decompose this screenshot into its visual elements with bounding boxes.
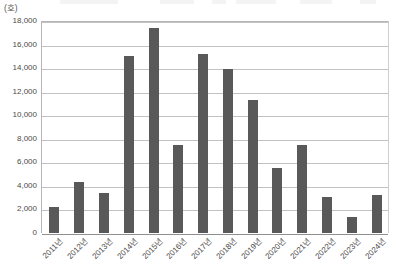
bar <box>272 168 282 233</box>
bar <box>297 145 307 233</box>
bar-slot <box>315 21 340 233</box>
bar <box>248 100 258 233</box>
y-axis-tick-labels: 02,0004,0006,0008,00010,00012,00014,0001… <box>0 21 37 233</box>
y-axis-tick: 10,000 <box>0 111 37 119</box>
y-axis-tick: 16,000 <box>0 41 37 49</box>
bar <box>49 207 59 233</box>
bar <box>347 217 357 233</box>
x-axis-tick: 2017년 <box>190 237 214 261</box>
y-axis-tick: 4,000 <box>0 182 37 190</box>
x-axis-tick: 2013년 <box>90 237 114 261</box>
y-axis-tick: 14,000 <box>0 64 37 72</box>
bar-series <box>42 21 389 233</box>
bar-slot <box>141 21 166 233</box>
bar-slot <box>265 21 290 233</box>
bar-slot <box>216 21 241 233</box>
bar <box>149 28 159 233</box>
x-axis-tick: 2012년 <box>66 237 90 261</box>
y-axis-tick: 12,000 <box>0 88 37 96</box>
bar <box>99 193 109 233</box>
bar-chart: (호) 02,0004,0006,0008,00010,00012,00014,… <box>0 0 393 278</box>
x-axis-tick: 2023년 <box>338 237 362 261</box>
bar-slot <box>116 21 141 233</box>
x-axis-tick: 2019년 <box>239 237 263 261</box>
bar <box>198 54 208 233</box>
x-axis-tick-labels: 2011년2012년2013년2014년2015년2016년2017년2018년… <box>42 234 389 278</box>
bar-slot <box>290 21 315 233</box>
x-axis-tick: 2014년 <box>115 237 139 261</box>
x-axis-tick: 2011년 <box>41 237 64 260</box>
x-axis-tick: 2024년 <box>363 237 387 261</box>
bar <box>173 145 183 233</box>
bar-slot <box>166 21 191 233</box>
x-axis-tick: 2020년 <box>264 237 288 261</box>
bar <box>322 197 332 234</box>
top-edge-artifact <box>60 0 380 5</box>
bar <box>124 56 134 233</box>
bar-slot <box>92 21 117 233</box>
x-axis-tick: 2015년 <box>140 237 164 261</box>
bar-slot <box>42 21 67 233</box>
y-axis-tick: 2,000 <box>0 205 37 213</box>
x-axis-tick: 2016년 <box>165 237 189 261</box>
y-axis-tick: 0 <box>0 229 37 237</box>
bar-slot <box>339 21 364 233</box>
y-axis-unit-label: (호) <box>4 1 18 13</box>
y-axis-tick: 18,000 <box>0 17 37 25</box>
bar-slot <box>191 21 216 233</box>
bar <box>74 182 84 233</box>
x-axis-tick: 2022년 <box>313 237 337 261</box>
y-axis-tick: 8,000 <box>0 135 37 143</box>
bar-slot <box>364 21 389 233</box>
bar-slot <box>67 21 92 233</box>
bar-slot <box>240 21 265 233</box>
bar <box>223 69 233 233</box>
bar <box>372 195 382 233</box>
x-axis-tick: 2018년 <box>214 237 238 261</box>
x-axis-tick: 2021년 <box>289 237 313 261</box>
y-axis-tick: 6,000 <box>0 158 37 166</box>
